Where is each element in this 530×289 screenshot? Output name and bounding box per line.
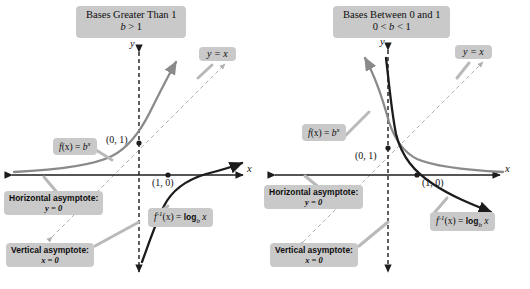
logarithm-label-box: f-1(x) = logb x (148, 208, 213, 227)
vertical-asymptote-box: Vertical asymptote: x = 0 (270, 243, 358, 267)
horizontal-asymptote-box: Horizontal asymptote: y = 0 (4, 191, 103, 215)
logarithm-var: x (484, 216, 488, 226)
y-axis-label: y (380, 36, 385, 47)
logarithm-eq: = (458, 216, 463, 226)
exponential-label-box: f(x) = bx (302, 124, 346, 141)
horizontal-asymptote-title: Horizontal asymptote: (9, 193, 98, 203)
identity-line-label-box: y = x (455, 45, 492, 59)
x-axis-label: x (247, 163, 252, 174)
vertical-asymptote-title: Vertical asymptote: (11, 245, 89, 255)
point-label-0-1: (0, 1) (355, 150, 377, 161)
horizontal-asymptote-box: Horizontal asymptote: y = 0 (264, 185, 363, 209)
y-axis-label: y (130, 38, 135, 49)
exponential-eq: = (324, 128, 329, 138)
logarithm-arg: (x) (162, 212, 173, 222)
vertical-asymptote-box: Vertical asymptote: x = 0 (6, 243, 94, 267)
logarithm-log: log (466, 216, 479, 226)
exponential-arg: (x) (311, 128, 322, 138)
vertical-asymptote-eq: x = 0 (275, 255, 353, 265)
panel-title-box: Bases Between 0 and 1 0 < b < 1 (333, 6, 450, 38)
identity-line-label: y = x (207, 48, 228, 59)
exponential-logarithmic-figure: Bases Greater Than 1 b > 1 y x y = x f(x… (0, 0, 530, 289)
panel-title-line1: Bases Between 0 and 1 (343, 9, 440, 21)
panel-title-box: Bases Greater Than 1 b > 1 (76, 6, 186, 38)
panel-title-line1: Bases Greater Than 1 (86, 9, 176, 21)
leader-logarithm (435, 198, 447, 212)
leader-identity-line (457, 63, 469, 78)
exponential-eq: = (75, 142, 80, 152)
horizontal-asymptote-title: Horizontal asymptote: (269, 187, 358, 197)
point-0-1 (136, 140, 141, 145)
leader-exponential (345, 112, 369, 136)
panel-bases-between-0-and-1: Bases Between 0 and 1 0 < b < 1 y x y = … (265, 0, 530, 289)
exponential-exp: x (337, 126, 340, 134)
logarithm-var: x (202, 212, 206, 222)
exponential-label-box: f(x) = bx (53, 138, 97, 155)
exponential-exp: x (88, 140, 91, 148)
horizontal-asymptote-eq: y = 0 (9, 203, 98, 213)
logarithm-curve (386, 58, 491, 212)
logarithm-arg: (x) (444, 216, 455, 226)
leader-identity-line (198, 65, 212, 78)
x-axis-label: x (505, 163, 510, 174)
vertical-asymptote-eq: x = 0 (11, 255, 89, 265)
vertical-asymptote-title: Vertical asymptote: (275, 245, 353, 255)
point-label-1-0: (1, 0) (422, 177, 444, 188)
panel-title-line2: 0 < b < 1 (343, 21, 440, 33)
logarithm-sub: b (196, 217, 200, 225)
panel-title-line2: b > 1 (86, 21, 176, 33)
identity-line-label: y = x (463, 46, 484, 57)
point-1-0 (414, 172, 419, 177)
logarithm-label-box: f-1(x) = logb x (430, 212, 495, 231)
exponential-curve (365, 58, 503, 172)
logarithm-eq: = (176, 212, 181, 222)
identity-line-label-box: y = x (199, 47, 236, 61)
horizontal-asymptote-eq: y = 0 (269, 197, 358, 207)
point-label-0-1: (0, 1) (106, 134, 128, 145)
point-label-1-0: (1, 0) (152, 177, 174, 188)
logarithm-sub: b (478, 221, 482, 229)
exponential-curve (14, 62, 176, 172)
point-0-1 (385, 145, 390, 150)
leader-vertical-asymptote (359, 222, 388, 246)
leader-vertical-asymptote (95, 222, 139, 246)
exponential-arg: (x) (62, 142, 73, 152)
panel-bases-greater-than-1: Bases Greater Than 1 b > 1 y x y = x f(x… (0, 0, 265, 289)
logarithm-log: log (184, 212, 197, 222)
